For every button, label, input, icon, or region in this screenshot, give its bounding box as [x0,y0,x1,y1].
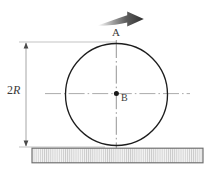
rolling-wheel-diagram [0,0,217,172]
label-diameter-2r: 2R [7,84,20,96]
diameter-dimension-line [19,42,116,147]
label-diameter-symbol: R [13,83,20,97]
label-point-b: B [121,93,128,103]
center-point-marker [114,91,119,96]
hatched-ground-block [32,148,203,163]
label-point-a: A [112,27,120,38]
rotation-direction-arrow [98,12,144,27]
figure-canvas: A B 2R [0,0,217,172]
